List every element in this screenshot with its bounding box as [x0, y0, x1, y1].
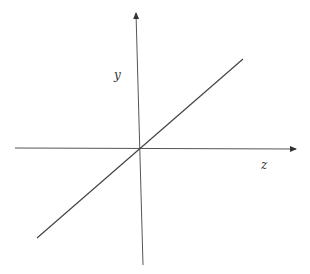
- y-axis-label: y: [114, 68, 121, 82]
- vertical-axis: [136, 13, 143, 265]
- diagram-canvas: y z: [0, 0, 310, 274]
- horizontal-axis: [15, 148, 296, 149]
- z-axis-label: z: [261, 158, 267, 172]
- axes-diagram: [0, 0, 310, 274]
